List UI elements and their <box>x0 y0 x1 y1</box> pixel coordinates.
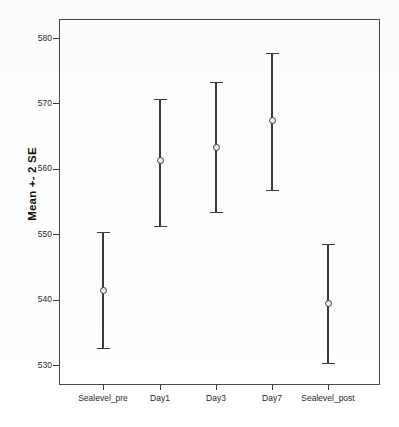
x-tick-mark-day7 <box>272 385 273 390</box>
errorbar-cap-lower <box>322 363 335 364</box>
mean-marker <box>213 144 220 151</box>
y-tick-mark-540 <box>53 300 59 301</box>
x-tick-mark-sealevel_post <box>328 385 329 390</box>
y-tick-mark-560 <box>53 169 59 170</box>
errorbar-cap-lower <box>154 226 167 227</box>
y-tick-mark-580 <box>53 38 59 39</box>
errorbar-cap-lower <box>210 212 223 213</box>
y-tick-label-530: 530 <box>22 361 52 370</box>
y-tick-label-540: 540 <box>22 295 52 304</box>
errorbar-cap-upper <box>210 82 223 83</box>
y-tick-label-580: 580 <box>22 34 52 43</box>
errorbar-cap-lower <box>266 190 279 191</box>
errorbar-cap-upper <box>154 99 167 100</box>
x-tick-mark-day3 <box>216 385 217 390</box>
errorbar-cap-upper <box>322 244 335 245</box>
y-tick-mark-550 <box>53 234 59 235</box>
x-tick-mark-day1 <box>160 385 161 390</box>
plot-frame <box>59 19 380 385</box>
y-tick-mark-570 <box>53 103 59 104</box>
x-tick-label-sealevel_post: Sealevel_post <box>268 394 388 403</box>
y-tick-label-560: 560 <box>22 164 52 173</box>
errorbar-cap-lower <box>97 348 110 349</box>
mean-marker <box>325 300 332 307</box>
mean-marker <box>157 157 164 164</box>
y-tick-mark-530 <box>53 365 59 366</box>
y-tick-label-570: 570 <box>22 99 52 108</box>
x-tick-mark-sealevel_pre <box>103 385 104 390</box>
errorbar-cap-upper <box>266 53 279 54</box>
mean-marker <box>269 117 276 124</box>
y-tick-label-550: 550 <box>22 230 52 239</box>
error-bar-chart-figure: Mean +- 2 SE 530540550560570580 Sealevel… <box>0 0 399 427</box>
errorbar-cap-upper <box>97 232 110 233</box>
mean-marker <box>100 287 107 294</box>
